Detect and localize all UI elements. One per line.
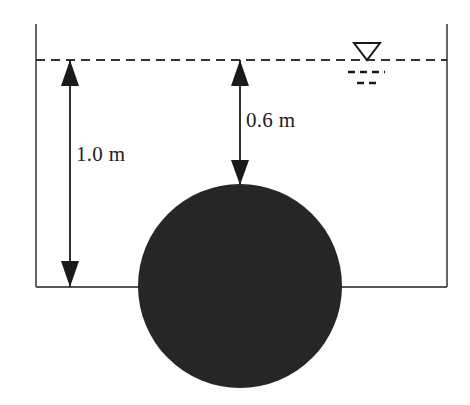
water-level-triangle-icon bbox=[354, 43, 380, 60]
diagram-svg bbox=[0, 0, 470, 405]
dimension-label-submergence-depth: 0.6 m bbox=[246, 108, 295, 133]
submerged-sphere bbox=[138, 184, 342, 388]
dimension-arrow-total-depth bbox=[61, 60, 79, 287]
dimension-label-total-depth: 1.0 m bbox=[76, 142, 125, 167]
diagram-canvas: 1.0 m 0.6 m bbox=[0, 0, 470, 405]
